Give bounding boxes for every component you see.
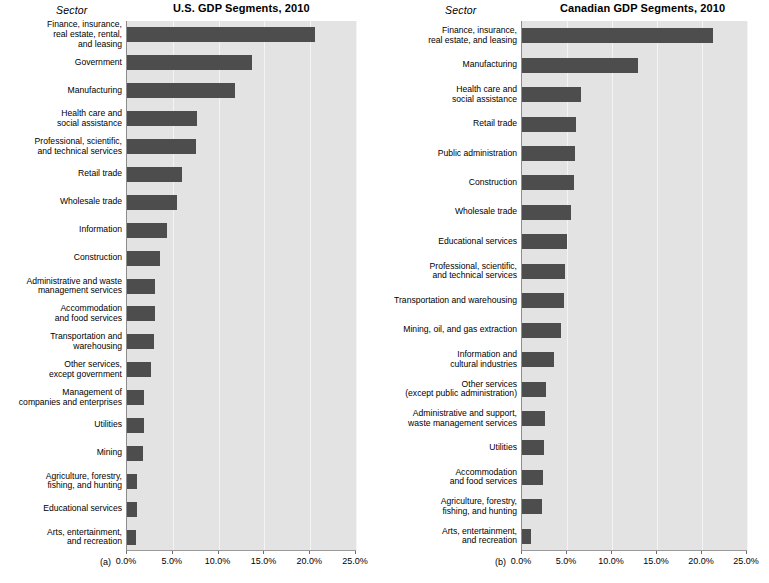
bar [522,28,713,43]
bar [127,390,144,405]
category-label: Public administration [385,149,517,159]
chart-title-canada: Canadian GDP Segments, 2010 [560,2,725,14]
bar [127,55,252,70]
gridline [173,21,174,551]
category-label: Finance, insurance, real estate, rental,… [0,20,122,49]
category-label: Administrative and support, waste manage… [385,409,517,428]
bar [522,352,554,367]
bar [127,530,136,545]
category-label: Wholesale trade [0,197,122,207]
x-tick-label: 10.0% [196,556,240,566]
axis-baseline [522,550,747,551]
gridline [657,21,658,551]
category-label: Manufacturing [385,60,517,70]
category-label: Arts, entertainment, and recreation [0,528,122,547]
bar [522,264,565,279]
x-tick-label: 0.0% [499,556,543,566]
category-label: Government [0,58,122,68]
bar [127,334,154,349]
sector-column-header-b: Sector [445,4,477,16]
category-label: Mining [0,448,122,458]
x-tick-mark [218,551,219,554]
gridline [264,21,265,551]
x-tick-label: 15.0% [634,556,678,566]
category-label: Construction [385,178,517,188]
bar [522,382,546,397]
category-label: Mining, oil, and gas extraction [385,325,517,335]
bar [522,58,638,73]
bar [127,195,177,210]
bar [522,323,561,338]
category-label: Accommodation and food services [0,304,122,323]
x-tick-mark [656,551,657,554]
x-tick-mark [309,551,310,554]
x-tick-mark [172,551,173,554]
category-label: Health care and social assistance [385,85,517,104]
plot-area-us [126,21,356,551]
bar [522,470,543,485]
bar [127,474,137,489]
x-tick-label: 20.0% [287,556,331,566]
bar [522,529,531,544]
x-tick-label: 25.0% [724,556,768,566]
category-label: Retail trade [385,119,517,129]
category-label: Other services (except public administra… [385,380,517,399]
x-tick-label: 25.0% [333,556,377,566]
category-label: Construction [0,253,122,263]
bar [522,293,564,308]
gridline [219,21,220,551]
bar [127,502,137,517]
category-label: Agriculture, forestry, fishing, and hunt… [385,497,517,516]
bar [127,83,235,98]
bar [522,117,576,132]
category-label: Retail trade [0,169,122,179]
bar [127,306,155,321]
gridline [747,21,748,551]
x-tick-label: 20.0% [679,556,723,566]
bar [127,362,151,377]
x-tick-label: 5.0% [544,556,588,566]
sector-column-header-a: Sector [56,4,88,16]
category-label: Wholesale trade [385,207,517,217]
chart-panel-canada: Sector Canadian GDP Segments, 2010 (b) F… [385,0,769,583]
gridline [356,21,357,551]
x-tick-mark [355,551,356,554]
category-label: Professional, scientific, and technical … [385,262,517,281]
bar [127,223,167,238]
x-tick-mark [263,551,264,554]
bar [127,418,144,433]
bar [127,27,315,42]
x-tick-mark [701,551,702,554]
bar [127,111,197,126]
bar [127,251,160,266]
category-label: Educational services [385,237,517,247]
figure-sheet: Sector U.S. GDP Segments, 2010 (a) Finan… [0,0,769,583]
bar [127,446,143,461]
category-label: Professional, scientific, and technical … [0,137,122,156]
bar [522,87,581,102]
chart-panel-us: Sector U.S. GDP Segments, 2010 (a) Finan… [0,0,385,583]
bar [522,205,571,220]
category-label: Transportation and warehousing [385,296,517,306]
gridline [612,21,613,551]
category-label: Health care and social assistance [0,109,122,128]
category-label: Other services, except government [0,360,122,379]
category-label: Manufacturing [0,86,122,96]
x-tick-mark [746,551,747,554]
bar [522,234,567,249]
category-label: Information and cultural industries [385,350,517,369]
category-label: Agriculture, forestry, fishing, and hunt… [0,472,122,491]
bar [522,411,545,426]
category-label: Educational services [0,504,122,514]
category-label: Transportation and warehousing [0,332,122,351]
category-label: Arts, entertainment, and recreation [385,527,517,546]
bar [522,499,542,514]
category-label: Utilities [385,443,517,453]
bar [522,440,544,455]
chart-title-us: U.S. GDP Segments, 2010 [173,2,310,14]
category-label: Accommodation and food services [385,468,517,487]
x-tick-label: 15.0% [241,556,285,566]
x-tick-label: 5.0% [150,556,194,566]
category-label: Information [0,225,122,235]
category-label: Finance, insurance, real estate, and lea… [385,26,517,45]
